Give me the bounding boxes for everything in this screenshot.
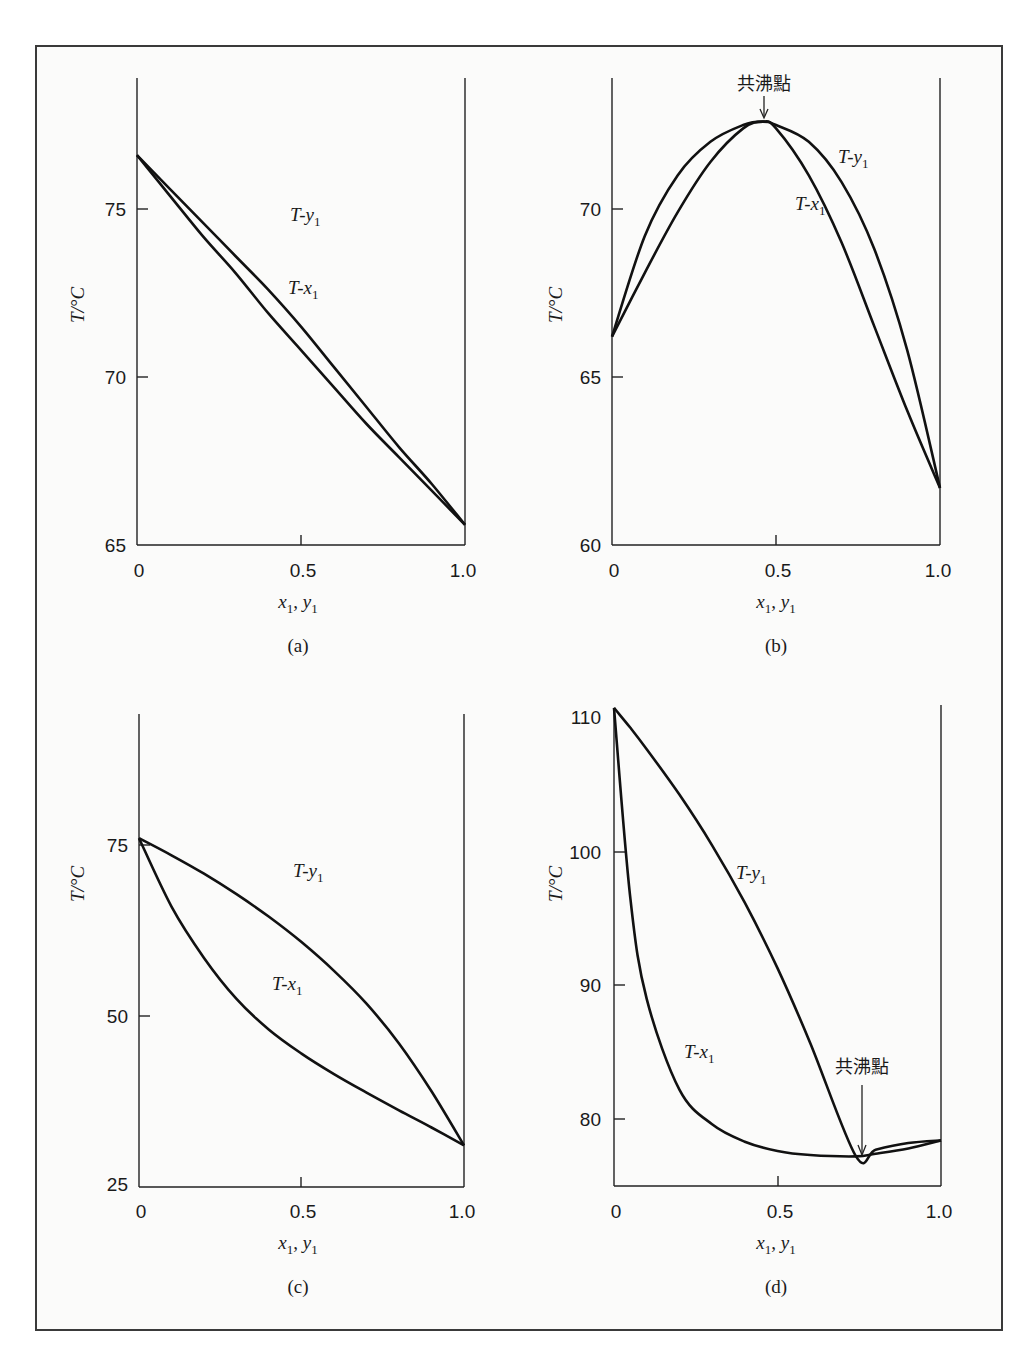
- svg-text:T-x1: T-x1: [684, 1041, 714, 1066]
- dew-curve-t-y1: [614, 708, 941, 1163]
- curve-label-vapor: T-y1: [736, 862, 766, 887]
- azeotrope-arrow-icon: [858, 1085, 866, 1155]
- azeotrope-annotation: 共沸點: [835, 1056, 889, 1077]
- curve-label-liquid: T-x1: [288, 277, 318, 302]
- y-tick-label: 75: [107, 835, 128, 856]
- svg-text:T-y1: T-y1: [290, 204, 320, 229]
- x-tick-label: 0.5: [765, 560, 791, 581]
- x-tick-label: 0: [611, 1201, 622, 1222]
- x-tick-label: 0: [136, 1201, 147, 1222]
- panel-a: 75 70 65 0 0.5 1.0 x1, y1 T/°C (a) T-y1 …: [67, 78, 476, 657]
- x-axis-label: x1, y1: [755, 1232, 795, 1257]
- x-tick-label: 0.5: [767, 1201, 793, 1222]
- panel-d: 110 100 90 80 0 0.5 1.0 x1, y1 T/°C (d) …: [545, 705, 952, 1298]
- x-tick-label: 0.5: [290, 560, 316, 581]
- y-axis-label: T/°C: [67, 287, 88, 323]
- y-tick-label: 60: [580, 535, 601, 556]
- y-tick-label: 65: [105, 535, 126, 556]
- y-tick-label: 70: [105, 367, 126, 388]
- x-tick-label: 1.0: [926, 1201, 952, 1222]
- y-tick-label: 25: [107, 1174, 128, 1195]
- y-tick-label: 80: [580, 1109, 601, 1130]
- svg-text:T-x1: T-x1: [272, 973, 302, 998]
- y-axis-label: T/°C: [67, 866, 88, 902]
- dew-curve-t-y1: [612, 122, 940, 488]
- curve-label-vapor: T-y1: [838, 146, 868, 171]
- panel-b: 70 65 60 0 0.5 1.0 x1, y1 T/°C (b) 共沸點 T…: [545, 73, 951, 657]
- panel-caption: (b): [765, 635, 787, 657]
- x-axis-label: x1, y1: [277, 591, 317, 616]
- curve-label-vapor: T-y1: [290, 204, 320, 229]
- x-tick-label: 0.5: [290, 1201, 316, 1222]
- x-tick-label: 1.0: [450, 560, 476, 581]
- azeotrope-arrow-icon: [760, 96, 768, 118]
- azeotrope-annotation: 共沸點: [737, 73, 791, 94]
- svg-text:T-y1: T-y1: [736, 862, 766, 887]
- curves: [612, 121, 940, 488]
- svg-text:T-x1: T-x1: [288, 277, 318, 302]
- y-tick-label: 110: [571, 707, 601, 728]
- curve-label-liquid: T-x1: [272, 973, 302, 998]
- x-tick-label: 1.0: [449, 1201, 475, 1222]
- panel-caption: (a): [287, 635, 308, 657]
- x-axis-label: x1, y1: [755, 591, 795, 616]
- curve-label-vapor: T-y1: [293, 860, 323, 885]
- panel-caption: (c): [287, 1276, 308, 1298]
- panel-caption: (d): [765, 1276, 787, 1298]
- bubble-curve-t-x1: [612, 121, 940, 488]
- y-tick-label: 65: [580, 367, 601, 388]
- y-tick-label: 75: [105, 199, 126, 220]
- curve-label-liquid: T-x1: [684, 1041, 714, 1066]
- y-axis-label: T/°C: [545, 866, 566, 902]
- svg-text:T-y1: T-y1: [293, 860, 323, 885]
- panel-c: 75 50 25 0 0.5 1.0 x1, y1 T/°C (c) T-y1 …: [67, 714, 475, 1298]
- curves: [614, 708, 941, 1163]
- y-tick-label: 70: [580, 199, 601, 220]
- y-tick-label: 50: [107, 1006, 128, 1027]
- y-tick-label: 100: [569, 842, 601, 863]
- x-tick-label: 0: [134, 560, 145, 581]
- svg-text:T-y1: T-y1: [838, 146, 868, 171]
- x-axis-label: x1, y1: [277, 1232, 317, 1257]
- bubble-curve-t-x1: [614, 708, 941, 1157]
- y-axis-label: T/°C: [545, 287, 566, 323]
- x-tick-label: 1.0: [925, 560, 951, 581]
- figure-canvas: 75 70 65 0 0.5 1.0 x1, y1 T/°C (a) T-y1 …: [0, 0, 1017, 1352]
- x-tick-label: 0: [609, 560, 620, 581]
- y-tick-label: 90: [580, 975, 601, 996]
